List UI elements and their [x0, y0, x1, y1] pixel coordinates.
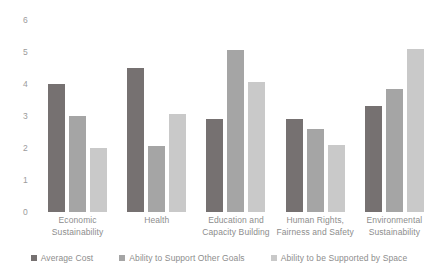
- bar-chart: 0123456 EconomicSustainabilityHealthEduc…: [0, 0, 438, 277]
- bar-group: [117, 20, 196, 212]
- bar: [206, 119, 223, 212]
- bar: [127, 68, 144, 212]
- x-tick-label: Human Rights,Fairness and Safety: [276, 215, 355, 238]
- x-tick-label-line: Education and: [196, 215, 275, 227]
- bar: [69, 116, 86, 212]
- bar: [328, 145, 345, 212]
- y-tick-label: 3: [23, 111, 28, 121]
- x-tick-label-line: Capacity Building: [196, 227, 275, 239]
- bar: [365, 106, 382, 212]
- x-tick-label-line: Economic: [38, 215, 117, 227]
- x-tick-label-line: Sustainability: [38, 227, 117, 239]
- bar: [286, 119, 303, 212]
- y-tick-label: 0: [23, 207, 28, 217]
- bar: [148, 146, 165, 212]
- legend-swatch-icon: [119, 255, 125, 261]
- bar: [48, 84, 65, 212]
- y-tick-label: 2: [23, 143, 28, 153]
- y-tick-label: 4: [23, 79, 28, 89]
- x-tick-label-line: Fairness and Safety: [276, 227, 355, 239]
- legend-item[interactable]: Ability to Support Other Goals: [119, 253, 244, 263]
- bar: [248, 82, 265, 212]
- bar: [407, 49, 424, 212]
- legend-item[interactable]: Ability to be Supported by Space: [271, 253, 408, 263]
- x-tick-label-line: Health: [117, 215, 196, 227]
- plot-area: [38, 20, 434, 212]
- bar: [227, 50, 244, 212]
- legend-swatch-icon: [31, 255, 37, 261]
- legend-label: Ability to Support Other Goals: [129, 253, 244, 263]
- bar-group: [276, 20, 355, 212]
- x-tick-label: EconomicSustainability: [38, 215, 117, 238]
- bar: [386, 89, 403, 212]
- y-tick-label: 6: [23, 15, 28, 25]
- x-tick-label-line: Environmental: [355, 215, 434, 227]
- x-tick-label-line: Sustainability: [355, 227, 434, 239]
- x-axis: EconomicSustainabilityHealthEducation an…: [38, 215, 434, 249]
- y-axis: 0123456: [0, 20, 34, 212]
- chart-legend: Average CostAbility to Support Other Goa…: [0, 253, 438, 263]
- bar: [307, 129, 324, 212]
- legend-swatch-icon: [271, 255, 277, 261]
- x-tick-label-line: Human Rights,: [276, 215, 355, 227]
- y-tick-label: 1: [23, 175, 28, 185]
- bar-group: [38, 20, 117, 212]
- bar-group: [355, 20, 434, 212]
- x-tick-label: Education andCapacity Building: [196, 215, 275, 238]
- legend-label: Ability to be Supported by Space: [281, 253, 408, 263]
- bar: [90, 148, 107, 212]
- legend-item[interactable]: Average Cost: [31, 253, 94, 263]
- bar: [169, 114, 186, 212]
- bar-group: [196, 20, 275, 212]
- legend-label: Average Cost: [41, 253, 94, 263]
- x-tick-label: EnvironmentalSustainability: [355, 215, 434, 238]
- x-tick-label: Health: [117, 215, 196, 227]
- y-tick-label: 5: [23, 47, 28, 57]
